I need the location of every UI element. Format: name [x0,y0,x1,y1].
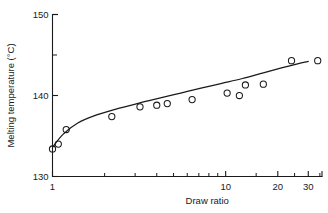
y-tick-label-130: 130 [33,171,49,182]
data-point-1 [55,141,61,147]
data-points-group [49,58,320,152]
data-point-6 [164,101,170,107]
figure-container: 1301401501102030 Draw ratioMelting tempe… [0,0,328,213]
data-point-8 [224,90,230,96]
axis-tick-labels-group: 1301401501102030 [33,9,314,192]
fitted-trend-line [53,61,309,147]
y-tick-label-150: 150 [33,9,49,20]
data-point-10 [242,82,248,88]
x-tick-label-10: 10 [220,181,231,192]
y-axis-title: Melting temperature (°C) [5,43,16,147]
data-point-9 [236,92,242,98]
x-tick-label-20: 20 [273,181,284,192]
data-point-7 [189,96,195,102]
chart-canvas: 1301401501102030 Draw ratioMelting tempe… [0,0,328,213]
axis-ticks-group [53,15,323,177]
axes-group [53,15,323,177]
data-point-3 [109,113,115,119]
x-tick-label-1: 1 [50,181,55,192]
x-axis-title: Draw ratio [186,195,229,206]
data-point-12 [288,58,294,64]
data-point-13 [315,58,321,64]
x-tick-label-30: 30 [303,181,314,192]
data-point-4 [137,104,143,110]
data-point-11 [260,81,266,87]
data-point-5 [154,102,160,108]
y-tick-label-140: 140 [33,90,49,101]
fitted-trend-line-path [53,61,309,147]
